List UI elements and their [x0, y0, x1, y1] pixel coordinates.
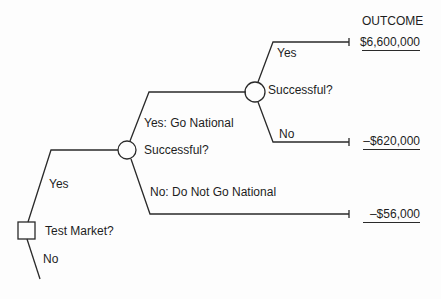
- node-label-test-market: Test Market?: [45, 224, 114, 238]
- outcome-value-3: –$56,000: [330, 207, 420, 221]
- branch-label-test-market-yes: Yes: [49, 177, 69, 191]
- node-label-test-success: Successful?: [144, 143, 209, 157]
- outcome-underline: [363, 149, 420, 150]
- branch-test-market-no: [27, 239, 40, 279]
- branch-label-test-market-no: No: [43, 252, 58, 266]
- outcome-underline: [363, 222, 420, 223]
- chance-node-circle-icon: [118, 141, 136, 159]
- decision-node-square-icon: [18, 222, 35, 239]
- branch-label-go-national-yes: Yes: Go National: [144, 116, 234, 130]
- decision-tree-diagram: OUTCOME $6,600,000 –$620,000 –$56,000 Ye…: [0, 0, 441, 299]
- outcome-value-2: –$620,000: [330, 134, 420, 148]
- chance-node-circle-icon: [245, 82, 265, 102]
- node-label-national-success: Successful?: [268, 83, 333, 97]
- branch-label-go-national-no: No: Do Not Go National: [150, 185, 276, 199]
- branch-label-national-success-no: No: [279, 127, 294, 141]
- branch-label-national-success-yes: Yes: [277, 46, 297, 60]
- outcome-value-1: $6,600,000: [330, 35, 420, 49]
- outcome-underline: [362, 50, 420, 51]
- branch-test-market-yes: [28, 150, 118, 222]
- outcome-header: OUTCOME: [362, 14, 423, 28]
